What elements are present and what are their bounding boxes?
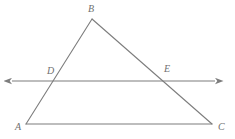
vertex-label-b: B — [88, 4, 94, 14]
geometry-canvas — [0, 0, 235, 139]
vertex-label-e: E — [164, 64, 170, 74]
vertex-label-c: C — [218, 122, 225, 132]
segment-ab — [26, 19, 92, 124]
vertex-label-d: D — [47, 66, 54, 76]
vertex-label-a: A — [15, 122, 21, 132]
geometry-figure: B D E A C — [0, 0, 235, 139]
segment-bc — [92, 19, 212, 124]
